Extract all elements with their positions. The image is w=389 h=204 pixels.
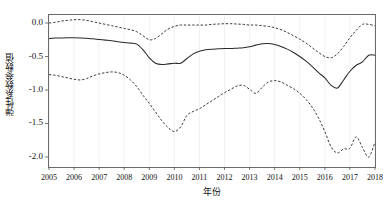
chart-container: 弹性系数参数值 0.0-0.5-1.0-1.5-2.0 200520062007…: [0, 0, 389, 204]
y-axis-title-text: 弹性系数参数值: [5, 53, 14, 116]
x-tick-label: 2014: [267, 173, 283, 183]
x-axis-title-text: 年份: [203, 187, 221, 197]
plot-area: [48, 14, 376, 168]
y-axis-tick-labels: 0.0-0.5-1.0-1.5-2.0: [15, 0, 43, 170]
y-tick-label: 0.0: [17, 18, 43, 27]
plot-svg: [49, 15, 375, 167]
x-tick-label: 2008: [116, 173, 132, 183]
x-tick-label: 2013: [242, 173, 258, 183]
y-tick-label: -0.5: [17, 52, 43, 61]
x-tick-label: 2012: [217, 173, 233, 183]
x-tick-label: 2016: [317, 173, 333, 183]
series-line-estimate: [49, 38, 375, 88]
series-group: [49, 20, 375, 157]
x-tick-label: 2011: [192, 173, 208, 183]
x-tick-label: 2018: [367, 173, 383, 183]
y-tick-label: -1.5: [17, 118, 43, 127]
x-tick-label: 2015: [292, 173, 308, 183]
x-tick-label: 2017: [342, 173, 358, 183]
y-tick-label: -1.0: [17, 85, 43, 94]
x-tick-label: 2005: [41, 173, 57, 183]
x-tick-label: 2007: [91, 173, 107, 183]
x-axis-tick-labels: 2005200620072008200920102011201220132014…: [0, 170, 389, 184]
gridlines-group: [49, 15, 375, 167]
x-tick-label: 2009: [141, 173, 157, 183]
x-tick-label: 2006: [66, 173, 82, 183]
x-tick-label: 2010: [166, 173, 182, 183]
x-axis-title: 年份: [48, 185, 376, 198]
y-tick-label: -2.0: [17, 152, 43, 161]
series-line-confidence-lower: [49, 72, 375, 157]
